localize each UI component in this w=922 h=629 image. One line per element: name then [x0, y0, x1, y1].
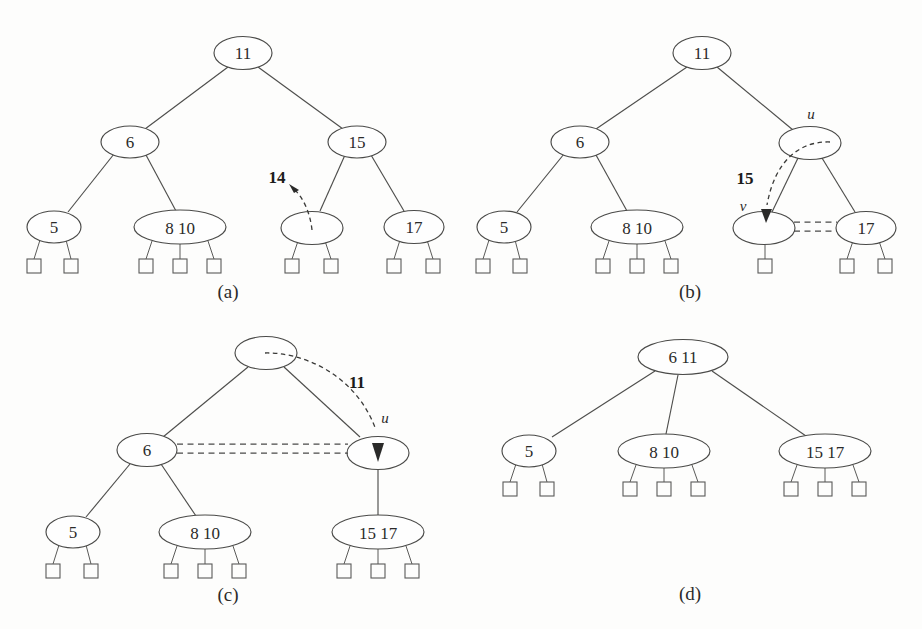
external-node — [173, 259, 187, 273]
stem-b-810-l — [603, 241, 609, 259]
node-keys: 5 — [50, 218, 59, 237]
panel-a: 11 6 15 5 8 10 17 14 (a) — [27, 37, 444, 303]
external-node — [784, 482, 798, 496]
edge-15-to-empty — [320, 155, 345, 211]
node-keys: 17 — [406, 218, 424, 237]
external-node — [840, 259, 854, 273]
pointer-label-u: u — [381, 410, 389, 426]
inserted-key-label: 11 — [349, 373, 365, 392]
external-node — [513, 259, 527, 273]
node-keys: 8 10 — [190, 524, 220, 543]
panel-label-a: (a) — [217, 281, 238, 303]
edge-6-to-5 — [68, 154, 114, 212]
stem-b-5-r — [515, 240, 520, 259]
node-keys: 15 17 — [806, 443, 845, 462]
external-node — [852, 482, 866, 496]
stem-d-5-r — [542, 464, 547, 482]
stem-d-1517-r — [853, 465, 859, 482]
external-node — [139, 259, 153, 273]
external-node — [232, 564, 246, 578]
panel-d: 6 11 5 8 10 15 17 (d) — [502, 340, 871, 605]
stem-d-810-r — [692, 465, 698, 482]
external-node — [64, 259, 78, 273]
edge-6-to-5 — [86, 464, 130, 517]
panel-c: 6 5 8 10 15 17 11 u (c) — [46, 337, 424, 606]
edge-root-to-8-10 — [666, 375, 678, 434]
node-keys: 8 10 — [165, 219, 195, 238]
inserted-key-label: 15 — [737, 169, 754, 188]
external-node — [503, 482, 517, 496]
node-keys: 5 — [500, 218, 509, 237]
pointer-label-v: v — [740, 198, 747, 214]
node-keys: 6 11 — [668, 348, 697, 367]
edge-root-to-u — [717, 67, 793, 130]
edge-root-to-5 — [552, 371, 655, 437]
external-node — [371, 564, 385, 578]
edge-6-to-5 — [517, 154, 564, 212]
external-node — [164, 564, 178, 578]
panel-label-c: (c) — [217, 584, 238, 606]
external-node — [27, 259, 41, 273]
external-node — [426, 259, 440, 273]
external-node — [818, 482, 832, 496]
node-keys: 5 — [525, 442, 534, 461]
external-node — [657, 482, 671, 496]
edge-u-to-17 — [822, 158, 855, 212]
node-keys: 6 — [576, 133, 585, 152]
edge-root-to-15-17 — [712, 371, 806, 436]
figure-canvas: 11 6 15 5 8 10 17 14 (a) — [0, 0, 922, 629]
stem-c-810-r — [233, 546, 239, 564]
stem-a-17-l — [394, 240, 400, 259]
edge-u-to-v — [772, 158, 798, 212]
stem-a-810-r — [208, 241, 214, 259]
stem-d-5-l — [510, 464, 516, 482]
stem-a-empty-l — [292, 241, 298, 259]
panel-label-b: (b) — [679, 281, 701, 303]
external-node — [207, 259, 221, 273]
stem-a-empty-r — [325, 241, 331, 259]
edge-root-to-6 — [596, 67, 687, 129]
panel-label-d: (d) — [679, 583, 701, 605]
external-node — [84, 564, 98, 578]
external-node — [623, 482, 637, 496]
inserted-key-label: 14 — [269, 168, 287, 187]
tree-figure-svg: 11 6 15 5 8 10 17 14 (a) — [0, 0, 922, 629]
edge-6-to-8-10 — [146, 155, 176, 211]
edge-root-to-15 — [258, 67, 343, 129]
stem-a-17-r — [427, 240, 433, 259]
edge-root-to-6 — [145, 67, 228, 129]
node-keys: 15 — [349, 133, 366, 152]
external-node — [324, 259, 338, 273]
node-keys: 5 — [69, 523, 78, 542]
external-node — [540, 482, 554, 496]
stem-d-1517-l — [791, 465, 797, 482]
stem-b-17-l — [847, 241, 853, 259]
tree-node-u[interactable] — [779, 127, 841, 160]
external-node — [878, 259, 892, 273]
stem-b-5-l — [483, 240, 489, 259]
stem-b-810-r — [665, 241, 671, 259]
external-node — [630, 259, 644, 273]
external-node — [387, 259, 401, 273]
external-node — [476, 259, 490, 273]
external-node — [691, 482, 705, 496]
stem-c-1517-l — [344, 546, 350, 564]
node-keys: 17 — [858, 219, 876, 238]
node-keys: 11 — [235, 44, 251, 63]
edge-root-to-6 — [163, 367, 248, 437]
panel-b: 11 6 5 8 10 17 15 u v (b) — [476, 37, 896, 303]
node-keys: 15 17 — [359, 524, 398, 543]
external-node — [46, 564, 60, 578]
arrowhead-14 — [289, 184, 299, 193]
node-keys: 8 10 — [622, 219, 652, 238]
stem-c-1517-r — [406, 546, 412, 564]
node-keys: 6 — [126, 133, 135, 152]
stem-a-5-l — [34, 240, 40, 259]
external-node — [337, 564, 351, 578]
stem-c-5-l — [53, 545, 59, 564]
node-keys: 6 — [143, 441, 152, 460]
stem-b-17-r — [879, 241, 885, 259]
edge-15-to-17 — [371, 155, 404, 211]
external-node — [405, 564, 419, 578]
stem-c-810-l — [171, 546, 177, 564]
